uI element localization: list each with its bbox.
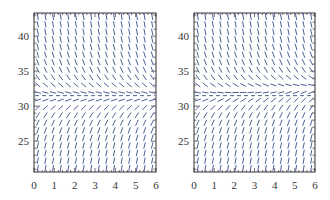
slope-segment [310, 135, 312, 141]
x-tick-label: 2 [232, 179, 238, 191]
slope-segment [106, 157, 107, 163]
slope-segment [280, 135, 282, 141]
slope-segment [255, 92, 261, 93]
slope-segment [121, 165, 122, 171]
slope-segment [68, 21, 69, 27]
slope-segment [113, 157, 114, 163]
slope-segment [226, 67, 229, 73]
slope-segment [212, 120, 215, 126]
slope-segment [45, 150, 46, 156]
slope-segment [227, 52, 229, 58]
x-tick-label: 2 [72, 179, 78, 191]
slope-segment [98, 127, 100, 133]
slope-segment [273, 36, 275, 42]
slope-segment [242, 120, 244, 126]
slope-segment [279, 75, 284, 79]
slope-segment [128, 52, 130, 58]
slope-segment [105, 75, 109, 80]
slope-segment [288, 21, 289, 27]
slope-segment [280, 165, 281, 171]
slope-segment [68, 157, 69, 163]
y-tick-label: 30 [18, 100, 30, 112]
slope-segment [212, 44, 214, 50]
slope-segment [67, 120, 70, 126]
slope-segment [197, 135, 199, 141]
slope-segment [112, 105, 117, 109]
slope-segment [67, 112, 71, 117]
slope-segment [205, 29, 206, 35]
slope-segment [271, 75, 276, 80]
slope-segment [235, 142, 237, 148]
slope-segment [293, 91, 299, 93]
slope-segment [144, 44, 146, 50]
slope-segment [75, 157, 76, 163]
slope-segment [136, 21, 137, 27]
slope-segment [60, 44, 62, 50]
slope-segment [301, 75, 306, 79]
slope-segment [280, 29, 281, 35]
slope-segment [52, 127, 54, 133]
slope-segment [310, 112, 313, 118]
slope-segment [52, 135, 54, 141]
slope-segment [273, 21, 274, 27]
slope-segment [256, 75, 260, 80]
slope-segment [126, 92, 132, 94]
slope-segment [105, 112, 109, 117]
slope-segment [308, 91, 314, 94]
slope-segment [228, 14, 229, 20]
slope-segment [120, 67, 123, 73]
slope-segment [212, 142, 214, 148]
slope-segment [294, 98, 299, 103]
slope-segment [98, 59, 100, 65]
slope-field-panel-left: 012345625303540 [18, 13, 159, 191]
slope-segment [242, 29, 243, 35]
slope-segment [59, 120, 62, 126]
slope-segment [68, 29, 69, 35]
slope-segment [196, 112, 199, 117]
slope-segment [82, 127, 84, 133]
slope-segment [205, 157, 206, 163]
slope-segment [75, 165, 76, 171]
slope-segment [311, 14, 312, 20]
slope-segment [310, 127, 312, 133]
slope-segment [68, 36, 69, 42]
slope-segment [136, 14, 137, 20]
slope-segment [75, 127, 77, 133]
slope-segment [303, 142, 304, 148]
slope-segment [68, 142, 70, 148]
slope-segment [67, 59, 69, 65]
slope-segment [303, 157, 304, 163]
slope-segment [220, 36, 221, 42]
slope-segment [242, 67, 245, 73]
slope-segment [90, 52, 92, 58]
slope-segment [234, 67, 237, 73]
slope-segment [197, 127, 199, 133]
slope-segment [226, 75, 230, 80]
slope-segment [60, 157, 61, 163]
slope-segment [241, 75, 245, 80]
slope-segment [128, 59, 130, 65]
slope-segment [227, 36, 228, 42]
slope-segment [67, 67, 70, 73]
slope-segment [144, 52, 146, 58]
slope-segment [235, 150, 236, 156]
slope-segment [60, 52, 62, 58]
slope-segment [66, 105, 71, 109]
slope-segment [272, 120, 274, 126]
slope-segment [302, 112, 305, 118]
slope-segment [227, 165, 228, 171]
slope-segment [218, 99, 224, 102]
slope-segment [74, 105, 79, 109]
slope-segment [59, 75, 63, 80]
slope-segment [143, 59, 145, 65]
slope-segment [280, 36, 282, 42]
slope-segment [50, 92, 56, 94]
slope-segment [265, 142, 266, 148]
slope-segment [303, 135, 305, 141]
slope-segment [52, 44, 54, 50]
slope-segment [265, 157, 266, 163]
slope-segment [225, 98, 231, 101]
slope-segment [258, 150, 259, 156]
slope-segment [220, 14, 221, 20]
slope-segment [280, 142, 281, 148]
